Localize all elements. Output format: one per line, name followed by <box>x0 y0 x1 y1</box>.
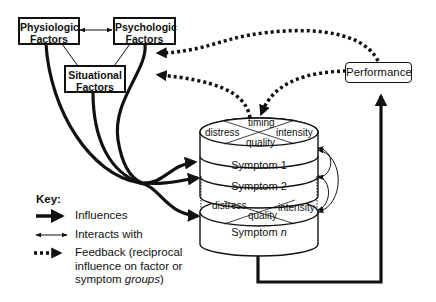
dim-quality-top: quality <box>246 137 275 148</box>
key-symbols <box>34 216 67 253</box>
dim-distress-top: distress <box>205 127 239 138</box>
symptom-2-label: Symptom 2 <box>200 180 318 192</box>
symptom-n-label: Symptom n <box>200 226 318 238</box>
performance-box: Performance <box>345 62 412 83</box>
key-influences: Influences <box>75 209 127 223</box>
key-feedback: Feedback (reciprocal influence on factor… <box>75 246 182 287</box>
diagram-canvas <box>0 0 436 302</box>
dim-distress-bottom: distress <box>212 200 246 211</box>
key-interacts: Interacts with <box>75 228 143 242</box>
dim-timing-top: timing <box>248 117 275 128</box>
psychologic-factors-box: Psychologic Factors <box>113 17 176 45</box>
dim-intensity-bottom: intensity <box>278 202 315 213</box>
situational-factors-box: Situational Factors <box>64 65 126 93</box>
dim-quality-bottom: quality <box>248 210 277 221</box>
dim-intensity-top: intensity <box>276 127 313 138</box>
symptom-1-label: Symptom 1 <box>200 159 318 171</box>
key-title: Key: <box>36 193 61 205</box>
physiologic-factors-box: Physiologic Factors <box>18 17 80 45</box>
